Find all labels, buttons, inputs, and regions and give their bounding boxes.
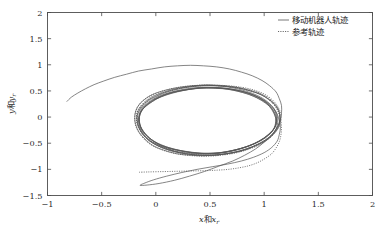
legend-label-1: 参考轨迹	[292, 27, 325, 37]
x-tick-label: 1.5	[312, 199, 325, 209]
y-tick-label: 0.5	[29, 86, 42, 96]
y-tick-label: −1.5	[23, 191, 43, 201]
y-tick-label: −1	[30, 164, 42, 174]
x-tick-label: 0	[153, 199, 158, 209]
y-tick-label: 1.5	[29, 34, 42, 44]
y-tick-label: 0	[37, 112, 42, 122]
x-tick-label: 2	[370, 199, 375, 209]
trajectory-chart: −1−0.500.511.52 21.510.50−0.5−1−1.5 移动机器…	[0, 0, 392, 228]
chart-background	[0, 0, 392, 228]
x-tick-label: 1	[262, 199, 267, 209]
legend-label-0: 移动机器人轨迹	[292, 15, 349, 25]
x-tick-label: −1	[41, 199, 53, 209]
y-tick-label: 1	[37, 60, 42, 70]
figure-container: −1−0.500.511.52 21.510.50−0.5−1−1.5 移动机器…	[0, 0, 392, 228]
x-tick-label: −0.5	[92, 199, 112, 209]
y-tick-label: −0.5	[23, 138, 43, 148]
x-tick-label: 0.5	[203, 199, 216, 209]
y-tick-label: 2	[37, 8, 42, 18]
